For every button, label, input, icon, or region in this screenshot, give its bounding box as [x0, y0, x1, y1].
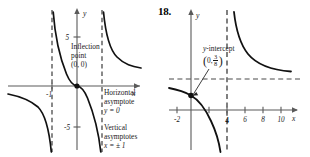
curve-branch-right	[234, 12, 291, 72]
y-intercept-fraction: 38	[213, 54, 218, 67]
vertical-asymptotes-annotation: Vertical asymptotes x = ± 1	[104, 123, 137, 151]
textbook-figure-page: 5 -5 -1 y x Inflection point (0, 0)	[0, 0, 310, 157]
y-intercept-label: yy-intercept-intercept	[203, 44, 235, 53]
curve-branch-right	[104, 12, 142, 68]
right-figure: -2 4 6 8 10 y x yy-intercept	[155, 0, 310, 157]
x-tick-label-minus2: -2	[174, 116, 180, 124]
vertical-asymptotes-line-3: x = ± 1	[104, 141, 137, 150]
right-figure-plot: -2 4 6 8 10 y x	[155, 0, 310, 157]
x-axis-arrow	[292, 107, 298, 112]
x-tick-label-4: 4	[225, 117, 229, 125]
inflection-line-3: (0, 0)	[71, 60, 100, 69]
y-intercept-annotation: yy-intercept-intercept (0,38)	[203, 44, 235, 68]
fraction-denominator: 8	[213, 60, 218, 67]
vertical-asymptotes-line-2: asymptotes	[104, 132, 137, 141]
inflection-point-annotation: Inflection point (0, 0)	[71, 42, 100, 70]
y-axis-arrow	[188, 9, 193, 15]
inflection-line-1: Inflection	[71, 42, 100, 51]
x-tick-label-10: 10	[277, 116, 285, 124]
y-tick-label-5: 5	[65, 34, 69, 42]
y-tick-label-minus5: -5	[64, 124, 70, 132]
y-intercept-x: 0,	[207, 57, 213, 66]
horizontal-asymptote-line-1: Horizontal	[104, 88, 136, 97]
horizontal-asymptote-annotation: Horizontal asymptote y = 0	[104, 88, 136, 116]
x-tick-label-6: 6	[243, 116, 247, 124]
y-intercept-leader-line	[194, 69, 210, 94]
horizontal-asymptote-line-2: asymptote	[104, 97, 136, 106]
y-intercept-point: (0,38)	[203, 54, 235, 67]
curve-branch-left	[8, 94, 51, 152]
y-axis-label: y	[82, 9, 87, 18]
x-tick-label-8: 8	[261, 116, 265, 124]
y-axis-label: y	[195, 11, 200, 20]
x-tick-label-minus1: -1	[46, 91, 52, 99]
y-axis-arrow	[74, 8, 79, 14]
close-paren: )	[219, 55, 223, 69]
inflection-line-2: point	[71, 51, 100, 60]
inflection-point-marker	[74, 83, 79, 88]
x-axis-label: x	[291, 114, 296, 123]
horizontal-asymptote-line-3: y = 0	[104, 106, 136, 115]
left-figure: 5 -5 -1 y x Inflection point (0, 0)	[0, 0, 155, 157]
vertical-asymptotes-line-1: Vertical	[104, 123, 137, 132]
